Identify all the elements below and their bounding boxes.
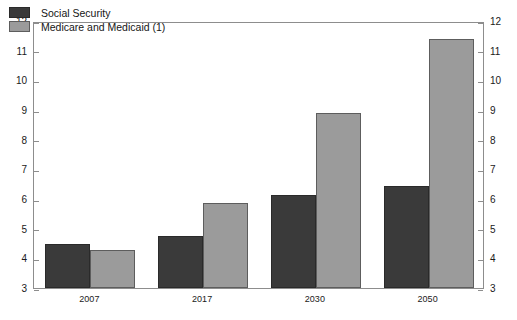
y-axis-label-left-6: 6 [0,195,27,205]
y-tick-right-5 [478,230,483,231]
y-tick-left-11 [34,52,39,53]
bar-2050-series-1 [429,39,474,288]
y-axis-label-right-12: 12 [490,17,514,27]
y-tick-right-10 [478,82,483,83]
y-axis-label-right-10: 10 [490,76,514,86]
y-tick-right-8 [478,141,483,142]
chart-legend: Social SecurityMedicare and Medicaid (1) [9,6,165,34]
bar-2007-series-0 [45,244,90,289]
y-tick-left-3 [34,290,39,291]
y-axis-label-right-9: 9 [490,106,514,116]
y-axis-label-right-8: 8 [490,136,514,146]
legend-swatch-icon-0 [9,7,30,18]
legend-label-1: Medicare and Medicaid (1) [41,21,165,33]
legend-item-0: Social Security [9,6,165,19]
y-tick-right-11 [478,52,483,53]
bar-2030-series-0 [271,195,316,288]
y-axis-label-right-4: 4 [490,254,514,264]
x-axis-label-2017: 2017 [172,294,232,305]
y-axis-label-left-7: 7 [0,165,27,175]
y-tick-left-8 [34,141,39,142]
y-tick-left-5 [34,230,39,231]
bar-2017-series-0 [158,236,203,288]
y-tick-left-7 [34,171,39,172]
plot-area [33,22,484,289]
y-tick-right-3 [478,290,483,291]
y-axis-label-left-4: 4 [0,254,27,264]
y-tick-right-4 [478,260,483,261]
y-axis-label-right-3: 3 [490,284,514,294]
y-axis-label-right-11: 11 [490,47,514,57]
bar-2017-series-1 [203,203,248,288]
bar-chart: Social SecurityMedicare and Medicaid (1)… [0,0,517,320]
y-tick-right-9 [478,112,483,113]
bar-2050-series-0 [384,186,429,288]
y-axis-label-left-3: 3 [0,284,27,294]
y-tick-right-12 [478,23,483,24]
bar-2007-series-1 [90,250,135,288]
y-axis-label-left-10: 10 [0,76,27,86]
legend-swatch-icon-1 [9,21,30,32]
y-axis-label-right-6: 6 [490,195,514,205]
y-axis-label-right-7: 7 [490,165,514,175]
y-tick-right-6 [478,201,483,202]
y-tick-left-4 [34,260,39,261]
x-axis-label-2030: 2030 [285,294,345,305]
x-axis-label-2050: 2050 [398,294,458,305]
x-axis-label-2007: 2007 [59,294,119,305]
y-axis-label-left-9: 9 [0,106,27,116]
y-axis-label-left-11: 11 [0,47,27,57]
y-axis-label-left-8: 8 [0,136,27,146]
legend-label-0: Social Security [41,7,110,19]
legend-item-1: Medicare and Medicaid (1) [9,20,165,33]
y-axis-label-left-5: 5 [0,225,27,235]
y-tick-left-10 [34,82,39,83]
y-tick-left-9 [34,112,39,113]
y-tick-right-7 [478,171,483,172]
y-axis-label-right-5: 5 [490,225,514,235]
y-tick-left-6 [34,201,39,202]
bar-2030-series-1 [316,113,361,288]
